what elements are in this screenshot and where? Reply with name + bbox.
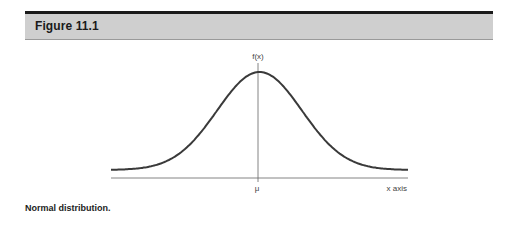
x-axis-label: x axis: [387, 184, 407, 193]
bell-curve: [111, 72, 408, 170]
figure-caption: Normal distribution.: [25, 203, 111, 213]
y-axis-label: f(x): [252, 52, 264, 61]
mean-tick-label: μ: [255, 184, 260, 193]
normal-distribution-chart: f(x) μ x axis: [0, 0, 513, 226]
